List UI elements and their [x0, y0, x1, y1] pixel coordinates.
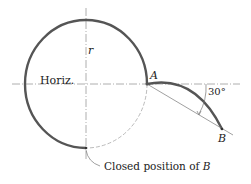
label-angle: 30°	[208, 87, 226, 97]
label-r: r	[88, 45, 93, 56]
label-closed-position: Closed position of B	[104, 161, 210, 172]
point-closed-B	[85, 147, 87, 149]
label-A: A	[150, 70, 158, 81]
closed-prefix: Closed position of	[104, 160, 203, 172]
closed-B: B	[203, 160, 211, 172]
label-horiz: Horiz.	[40, 75, 74, 86]
label-B: B	[218, 133, 226, 144]
point-B	[221, 128, 224, 131]
leader-line	[86, 150, 100, 166]
closed-arc-dashed	[86, 84, 147, 148]
point-A	[146, 83, 149, 86]
